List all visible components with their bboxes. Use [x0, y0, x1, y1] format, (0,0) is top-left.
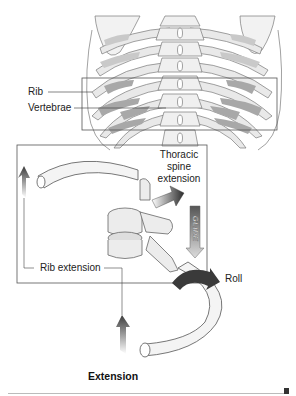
rib-extension-bracket — [24, 198, 122, 315]
glide-label: GLIDE — [191, 214, 200, 244]
figure-caption: Extension — [88, 370, 138, 382]
end-of-section-mark — [284, 388, 289, 394]
thoracic-label-line1: Thoracic — [154, 149, 204, 161]
upper-rib — [37, 161, 138, 188]
rib-extension-arrow-bottom — [116, 315, 130, 354]
bottom-divider — [8, 393, 288, 394]
thoracic-vertebra — [108, 179, 178, 272]
thoracic-label-line2: spine — [154, 161, 204, 173]
roll-label: Roll — [225, 273, 242, 285]
rib-label: Rib — [28, 86, 43, 98]
thoracic-extension-diagram — [0, 0, 296, 396]
rib-extension-label: Rib extension — [38, 262, 103, 274]
thoracic-label-line3: extension — [154, 173, 204, 185]
thoracic-spine-extension-label: Thoracic spine extension — [154, 149, 204, 185]
extension-arrow — [152, 186, 184, 208]
vertebrae-label: Vertebrae — [28, 102, 71, 114]
rib-extension-arrow-left — [18, 166, 30, 198]
